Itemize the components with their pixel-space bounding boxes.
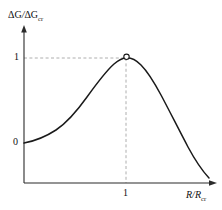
y-axis-label: ΔG/ΔGcr [8, 10, 43, 20]
y-axis-label-delta-1: ΔG [8, 9, 22, 20]
nucleation-free-energy-figure: ΔG/ΔGcr R/Rcr 0 1 1 [0, 0, 222, 210]
plot-canvas [0, 0, 222, 210]
y-axis-label-delta-2: ΔG [24, 9, 38, 20]
x-axis-label-subscript: cr [201, 195, 206, 202]
y-axis-tick-one: 1 [14, 52, 19, 62]
critical-point-marker [124, 54, 129, 59]
y-axis-label-subscript: cr [38, 15, 43, 22]
x-axis-tick-one: 1 [123, 188, 128, 198]
x-axis-arrow-icon [209, 180, 217, 186]
y-axis-tick-zero: 0 [13, 137, 18, 147]
y-axis-arrow-icon [21, 25, 27, 33]
free-energy-curve [24, 58, 209, 178]
x-axis-label: R/Rcr [186, 190, 206, 200]
